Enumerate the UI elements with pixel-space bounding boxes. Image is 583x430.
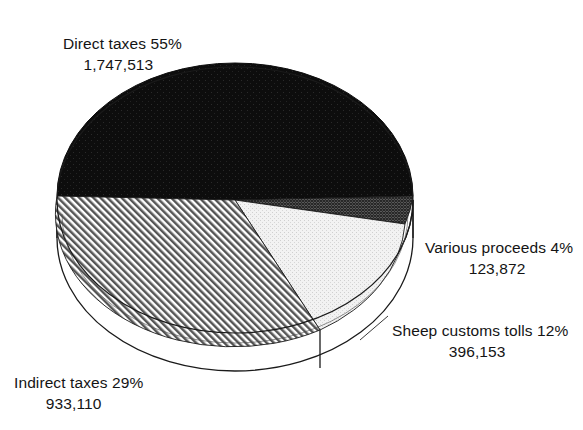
slice-label-sheep-customs-tolls-value: 396,153 (392, 341, 568, 362)
pie-chart-figure: Direct taxes 55% 1,747,513 Various proce… (0, 0, 583, 430)
slice-label-various-proceeds: Various proceeds 4% 123,872 (425, 237, 573, 280)
slice-label-sheep-customs-tolls-name: Sheep customs tolls 12% (392, 320, 568, 341)
pie-slice-direct-taxes (57, 63, 413, 200)
slice-label-indirect-taxes-name: Indirect taxes 29% (14, 372, 143, 393)
slice-label-indirect-taxes: Indirect taxes 29% 933,110 (14, 372, 143, 415)
slice-label-various-proceeds-value: 123,872 (425, 258, 573, 279)
slice-label-direct-taxes-value: 1,747,513 (63, 54, 182, 75)
pie-top-face (55, 63, 413, 347)
slice-label-various-proceeds-name: Various proceeds 4% (425, 237, 573, 258)
slice-label-direct-taxes: Direct taxes 55% 1,747,513 (63, 33, 182, 76)
slice-label-direct-taxes-name: Direct taxes 55% (63, 33, 182, 54)
slice-label-indirect-taxes-value: 933,110 (14, 393, 143, 414)
slice-label-sheep-customs-tolls: Sheep customs tolls 12% 396,153 (392, 320, 568, 363)
